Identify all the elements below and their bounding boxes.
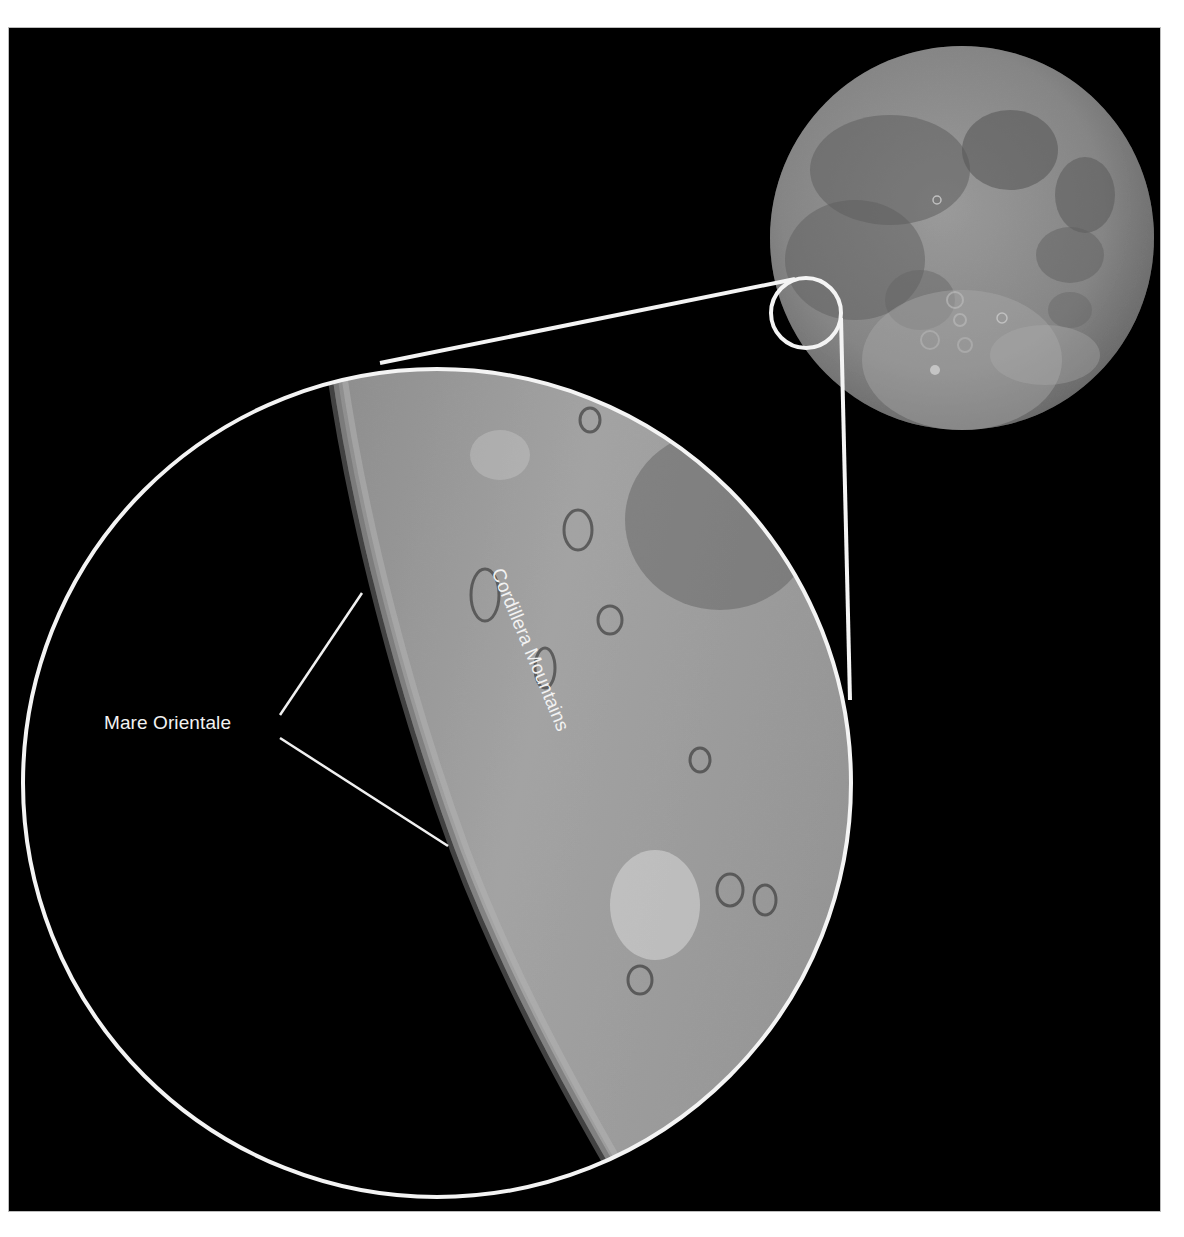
moon-diagram	[0, 0, 1184, 1237]
callout-line-top	[380, 279, 795, 363]
full-moon	[770, 46, 1154, 430]
label-mare-orientale: Mare Orientale	[104, 712, 231, 734]
inset-lunar-surface	[330, 360, 900, 1175]
magnified-inset	[23, 360, 900, 1197]
